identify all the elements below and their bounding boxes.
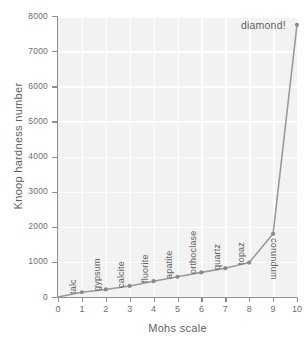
annotation-diamond: diamond! (241, 20, 286, 31)
x-tick-mark (130, 297, 131, 302)
x-tick-mark (225, 297, 226, 302)
x-tick-mark (106, 297, 107, 302)
y-tick-label: 8000 (14, 12, 48, 21)
y-axis-spine (57, 16, 58, 298)
gridline-vertical (106, 16, 108, 297)
point-label: apatite (165, 250, 174, 278)
x-tick-mark (154, 297, 155, 302)
gridline-vertical (225, 16, 227, 297)
x-tick-label: 5 (170, 305, 186, 314)
x-tick-label: 1 (74, 305, 90, 314)
plot-area (58, 16, 297, 297)
gridline-vertical (249, 16, 251, 297)
y-tick-label: 7000 (14, 47, 48, 56)
x-tick-label: 2 (98, 305, 114, 314)
x-tick-label: 8 (241, 305, 257, 314)
gridline-vertical (130, 16, 132, 297)
y-tick-mark (52, 157, 57, 158)
y-tick-mark (52, 227, 57, 228)
point-label: talc (69, 279, 78, 294)
gridline-vertical (178, 16, 180, 297)
point-label: topaz (237, 242, 246, 265)
x-tick-mark (178, 297, 179, 302)
point-label: gypsum (93, 259, 102, 292)
y-tick-mark (52, 297, 57, 298)
point-label: fluorite (141, 255, 150, 284)
x-tick-label: 3 (122, 305, 138, 314)
knoop-hardness-chart: 010002000300040005000600070008000 012345… (0, 0, 305, 345)
x-tick-mark (249, 297, 250, 302)
y-tick-mark (52, 16, 57, 17)
y-tick-mark (52, 121, 57, 122)
x-tick-label: 7 (217, 305, 233, 314)
x-tick-label: 9 (265, 305, 281, 314)
x-tick-mark (273, 297, 274, 302)
point-label: orthoclase (189, 231, 198, 275)
gridline-vertical (154, 16, 156, 297)
x-tick-mark (82, 297, 83, 302)
y-tick-mark (52, 262, 57, 263)
x-tick-mark (201, 297, 202, 302)
y-tick-mark (52, 86, 57, 87)
x-tick-mark (297, 297, 298, 302)
point-label: calcite (117, 261, 126, 288)
point-label: quartz (213, 244, 222, 270)
x-tick-label: 0 (50, 305, 66, 314)
x-tick-label: 6 (193, 305, 209, 314)
gridline-vertical (82, 16, 84, 297)
y-tick-mark (52, 192, 57, 193)
x-axis-title: Mohs scale (58, 322, 297, 334)
x-tick-label: 10 (289, 305, 305, 314)
x-tick-label: 4 (146, 305, 162, 314)
y-tick-label: 1000 (14, 257, 48, 266)
y-tick-label: 0 (14, 293, 48, 302)
gridline-vertical (201, 16, 203, 297)
x-tick-mark (58, 297, 59, 302)
point-label: corundum (269, 238, 278, 280)
y-tick-mark (52, 51, 57, 52)
y-axis-title: Knoop hardness number (12, 56, 24, 236)
